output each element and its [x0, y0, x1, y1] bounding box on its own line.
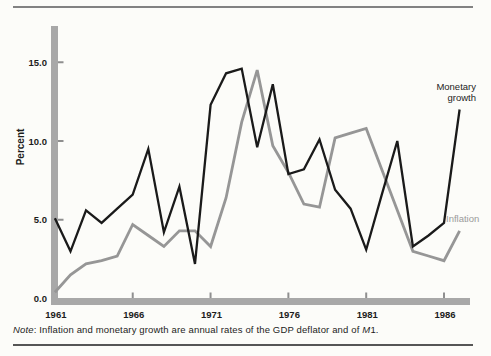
x-tick-label: 1971 — [201, 309, 223, 320]
y-tick-label: 0.0 — [34, 293, 47, 304]
x-tick-label: 1961 — [45, 309, 67, 320]
monetary-growth-label: Monetary growth — [424, 82, 476, 103]
x-tick-label: 1981 — [357, 309, 379, 320]
chart-canvas: 0.05.010.015.0 196119661971197619811986 … — [0, 0, 491, 356]
inflation-line — [55, 70, 460, 292]
bottom-rule — [13, 344, 473, 346]
y-tick-label: 15.0 — [29, 57, 48, 68]
x-tick-label: 1976 — [279, 309, 300, 320]
x-axis-bar — [51, 298, 470, 305]
y-tick-label: 10.0 — [29, 136, 48, 147]
inflation-label: Inflation — [446, 214, 479, 225]
y-axis-ticks: 0.05.010.015.0 — [29, 57, 64, 304]
note-text-part: : Inflation and monetary growth are annu… — [34, 324, 363, 335]
x-tick-label: 1966 — [123, 309, 144, 320]
x-axis-ticks: 196119661971197619811986 — [45, 293, 455, 321]
figure-container: 0.05.010.015.0 196119661971197619811986 … — [0, 0, 491, 356]
y-axis-title: Percent — [15, 128, 26, 165]
data-series — [55, 69, 460, 293]
y-axis-bar — [51, 26, 58, 305]
y-tick-label: 5.0 — [34, 214, 47, 225]
figure-note: Note: Inflation and monetary growth are … — [13, 324, 379, 335]
monetary-growth-line — [55, 69, 460, 264]
note-text-part: 1. — [370, 324, 378, 335]
x-tick-label: 1986 — [434, 309, 455, 320]
note-text-part: Note — [13, 324, 34, 335]
